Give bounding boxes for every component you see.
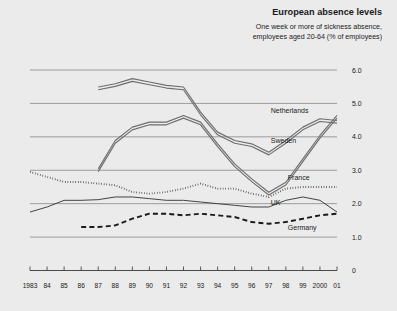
y-tick-label-1.0: 1.0 [352, 234, 362, 241]
x-tick-label-1999: 99 [299, 282, 307, 289]
page-title: European absence levels [272, 7, 382, 17]
series-label-sweden: Sweden [271, 137, 296, 144]
y-tick-label-0: 0 [352, 267, 356, 274]
x-tick-label-1996: 96 [248, 282, 256, 289]
x-tick-label-1997: 97 [265, 282, 273, 289]
x-tick-label-1986: 86 [77, 282, 85, 289]
x-tick-label-1987: 87 [95, 282, 103, 289]
chart-header: European absence levels One week or more… [253, 7, 382, 41]
y-tick-label-3.0: 3.0 [352, 167, 362, 174]
x-tick-label-1991: 91 [163, 282, 171, 289]
line-chart: European absence levels One week or more… [0, 0, 397, 311]
y-tick-label-4.0: 4.0 [352, 133, 362, 140]
x-tick-label-1983: 1983 [23, 282, 38, 289]
series-label-france: France [288, 174, 310, 181]
chart-background [0, 0, 397, 311]
x-tick-label-2001: 01 [333, 282, 341, 289]
x-tick-label-1992: 92 [180, 282, 188, 289]
x-tick-label-1993: 93 [197, 282, 205, 289]
x-tick-label-1984: 84 [43, 282, 51, 289]
subtitle-line-1: One week or more of sickness absence, [256, 23, 382, 31]
series-label-germany: Germany [288, 224, 317, 232]
x-tick-label-2000: 2000 [313, 282, 328, 289]
subtitle-line-2: employees aged 20-64 (% of employees) [253, 33, 382, 41]
x-tick-label-1998: 98 [282, 282, 290, 289]
series-label-uk: UK [271, 199, 281, 206]
x-tick-label-1988: 88 [112, 282, 120, 289]
x-tick-label-1990: 90 [146, 282, 154, 289]
y-tick-label-5.0: 5.0 [352, 100, 362, 107]
x-tick-label-1989: 89 [129, 282, 137, 289]
y-tick-label-6.0: 6.0 [352, 67, 362, 74]
x-tick-label-1985: 85 [60, 282, 68, 289]
series-label-netherlands: Netherlands [271, 107, 309, 114]
y-tick-label-2.0: 2.0 [352, 200, 362, 207]
x-tick-label-1994: 94 [214, 282, 222, 289]
chart-figure: European absence levels One week or more… [0, 0, 397, 311]
x-tick-label-1995: 95 [231, 282, 239, 289]
